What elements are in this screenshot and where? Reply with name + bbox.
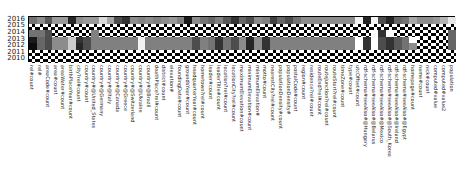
x-tick-label: timeZone#count <box>340 65 345 107</box>
x-tick-label: minimumElevation#count <box>247 65 252 130</box>
x-tick-label: locationCity?rel#count <box>231 65 236 122</box>
y-tick-label: 2010 <box>0 55 25 62</box>
x-tick-label: leader#count <box>208 65 213 99</box>
x-tick-label: area#count <box>53 65 58 94</box>
x-tick-label: minimumElevation# <box>255 65 260 116</box>
x-tick-label: birthPlaceYear#count <box>68 65 73 119</box>
x-tick-label: utcOffset#count <box>355 65 360 106</box>
x-tick-label: nick#count <box>425 65 430 94</box>
x-tick-label: population <box>449 65 454 92</box>
x-tick-label: populationDensity# <box>286 65 291 115</box>
x-tick-label: populationDensity#count <box>278 65 283 129</box>
x-tick-label: type#count <box>348 65 353 94</box>
x-tick-label: hometown?rel#count <box>200 65 205 119</box>
heatmap-chart: 2016201520142013201220112010 rel#countre… <box>0 0 465 187</box>
x-tick-label: deathPlace?rel#count <box>154 65 159 120</box>
x-tick-label: district#count <box>161 65 166 101</box>
x-tick-label: homepage#count <box>410 65 415 110</box>
x-tick-label: routeJunction?rel#count <box>324 65 329 126</box>
heatmap-cell <box>448 56 456 63</box>
x-tick-label: country#@Ukraine <box>138 65 143 113</box>
x-tick-label: city?rel#count <box>76 65 81 101</box>
heatmap-plot-area <box>28 16 455 62</box>
x-tick-label: computed#value2 <box>441 65 446 111</box>
x-tick-label: country#@Germany <box>99 65 104 116</box>
x-tick-label: postalCode#count <box>293 65 298 111</box>
x-tick-label: areaCode#count <box>45 65 50 107</box>
x-tick-label: rdf-schema#seeAlso#@Ireland <box>394 65 399 143</box>
x-tick-label: country#@Brazil <box>146 65 151 107</box>
x-tick-label: name#count <box>418 65 423 97</box>
x-tick-label: computed#value <box>433 65 438 108</box>
x-tick-label: rdf-schema#seeAlso#@Egypt <box>402 65 407 140</box>
x-tick-label: groundsYear#count <box>185 65 190 114</box>
x-tick-label: country#@United_States <box>91 65 96 128</box>
x-tick-label: elevation# <box>169 65 174 92</box>
x-tick-label: leaderTitle#count <box>216 65 221 110</box>
x-tick-label: routeStart?rel#count <box>332 65 337 118</box>
x-tick-label: foundingDate#count <box>177 65 182 117</box>
x-tick-label: nearestCity?rel#count <box>270 65 275 121</box>
x-tick-label: headquarterYear#count <box>192 65 197 125</box>
x-tick-label: country#@Italy <box>107 65 112 104</box>
x-tick-label: country#@Switzerland <box>130 65 135 122</box>
x-tick-label: rdf-schema#seeAlso#@Belarus <box>371 65 376 144</box>
x-tick-label: rdf-schema#seeAlso#@Hungary <box>363 65 368 147</box>
x-tick-label: country#@Greece <box>123 65 128 111</box>
x-tick-label: rel# <box>37 65 42 76</box>
x-tick-label: rdf-schema#seeAlso#@South_Korea <box>387 65 392 157</box>
x-tick-label: routeEnd?rel#count <box>317 65 322 115</box>
x-tick-label: country#count <box>84 65 89 102</box>
x-tick-label: residence?rel#count <box>309 65 314 117</box>
x-tick-label: areaWater#count <box>60 65 65 109</box>
x-tick-label: maximumElevation#count <box>239 65 244 132</box>
x-tick-label: country#@Canada <box>115 65 120 112</box>
x-tick-label: rdf-schema#seeAlso#@Mexico <box>379 65 384 143</box>
x-tick-label: rel#count <box>29 65 34 90</box>
x-tick-label: motto#count <box>262 65 267 98</box>
x-tick-label: location?rel#count <box>223 65 228 112</box>
x-tick-label: region#count <box>301 65 306 99</box>
